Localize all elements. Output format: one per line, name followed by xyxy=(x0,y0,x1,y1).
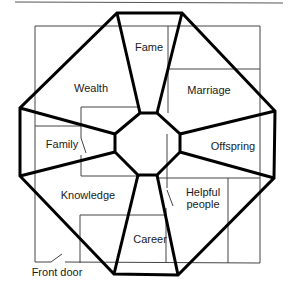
inner-octagon xyxy=(115,113,180,175)
label-marriage: Marriage xyxy=(187,84,230,96)
spoke xyxy=(117,13,140,113)
door-swing xyxy=(81,138,86,153)
spoke xyxy=(114,175,138,274)
label-family: Family xyxy=(46,138,79,150)
top-rule xyxy=(15,2,283,3)
spoke xyxy=(157,13,182,113)
label-offspring: Offspring xyxy=(211,140,255,152)
area-labels: Fame Wealth Marriage Family Offspring Kn… xyxy=(32,41,256,278)
label-knowledge: Knowledge xyxy=(61,189,115,201)
label-career: Career xyxy=(133,233,167,245)
bagua-diagram: Fame Wealth Marriage Family Offspring Kn… xyxy=(0,0,291,290)
front-door-swing xyxy=(51,254,62,262)
spoke xyxy=(180,111,275,134)
label-front-door: Front door xyxy=(32,266,83,278)
label-helpful: Helpful xyxy=(186,186,220,198)
door-swing xyxy=(167,190,173,206)
spoke xyxy=(20,152,115,176)
spoke xyxy=(20,108,115,134)
label-wealth: Wealth xyxy=(74,82,108,94)
label-fame: Fame xyxy=(135,41,163,53)
label-people: people xyxy=(186,198,219,210)
